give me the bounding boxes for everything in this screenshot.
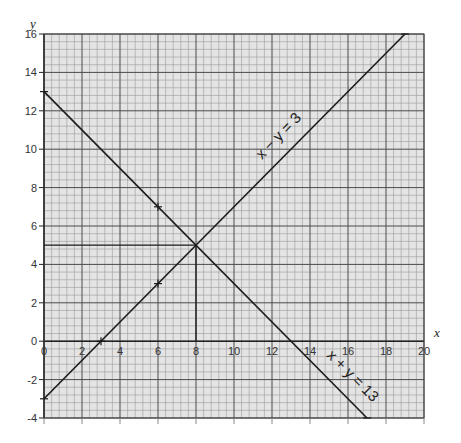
x-tick-label: 12 xyxy=(266,345,278,357)
x-tick-label: 10 xyxy=(228,345,240,357)
x-tick-label: 2 xyxy=(79,345,85,357)
y-tick-label: -2 xyxy=(27,374,37,386)
y-tick-label: 0 xyxy=(31,335,37,347)
y-tick-label: 12 xyxy=(25,105,37,117)
y-tick-label: 2 xyxy=(31,297,37,309)
y-axis-label: y xyxy=(28,16,36,31)
y-tick-label: 4 xyxy=(31,258,37,270)
x-tick-label: 4 xyxy=(117,345,123,357)
graph: -4-2024681012141602468101214161820 x y x… xyxy=(0,0,461,443)
x-axis-label: x xyxy=(433,325,440,340)
x-tick-label: 18 xyxy=(380,345,392,357)
y-tick-label: 6 xyxy=(31,220,37,232)
x-tick-label: 0 xyxy=(41,345,47,357)
y-tick-label: 10 xyxy=(25,143,37,155)
y-tick-label: 14 xyxy=(25,66,37,78)
x-tick-label: 6 xyxy=(155,345,161,357)
x-tick-label: 20 xyxy=(418,345,430,357)
x-tick-label: 8 xyxy=(193,345,199,357)
y-tick-label: -4 xyxy=(27,412,37,424)
y-tick-label: 8 xyxy=(31,182,37,194)
